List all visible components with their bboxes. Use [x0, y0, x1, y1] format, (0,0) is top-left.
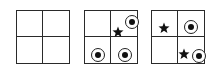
circle-with-dot-icon — [192, 49, 206, 63]
panel-2 — [84, 10, 138, 64]
circle-with-dot-icon — [125, 15, 139, 29]
horizontal-divider — [17, 36, 69, 37]
circle-with-dot-icon — [118, 48, 132, 62]
circle-with-dot-icon — [184, 20, 198, 34]
circle-with-dot-icon — [91, 48, 105, 62]
horizontal-divider — [85, 36, 137, 37]
panel-1 — [16, 10, 70, 64]
star-icon — [178, 48, 190, 60]
horizontal-divider — [152, 36, 204, 37]
panel-3 — [151, 10, 205, 64]
star-icon — [112, 26, 124, 38]
star-icon — [158, 22, 170, 34]
